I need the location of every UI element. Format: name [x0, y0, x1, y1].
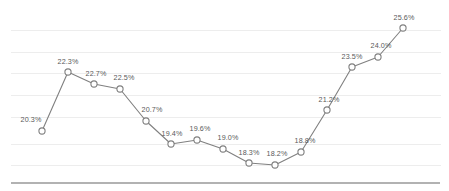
- data-point-15[interactable]: [400, 25, 406, 31]
- data-point-1[interactable]: [39, 128, 45, 134]
- data-point-6[interactable]: [168, 141, 174, 147]
- chart-plot-area: [0, 0, 449, 191]
- data-point-12[interactable]: [324, 107, 330, 113]
- data-point-13[interactable]: [349, 64, 355, 70]
- data-point-8[interactable]: [220, 146, 226, 152]
- data-point-7[interactable]: [194, 137, 200, 143]
- data-point-3[interactable]: [91, 81, 97, 87]
- data-point-11[interactable]: [298, 149, 304, 155]
- data-point-4[interactable]: [117, 86, 123, 92]
- data-point-5[interactable]: [143, 118, 149, 124]
- data-point-10[interactable]: [272, 162, 278, 168]
- series-markers-1: [39, 25, 406, 168]
- gridlines: [11, 31, 441, 166]
- data-point-2[interactable]: [65, 69, 71, 75]
- data-point-14[interactable]: [375, 54, 381, 60]
- line-chart: 20.3%22.3%22.7%22.5%20.7%19.4%19.6%19.0%…: [0, 0, 449, 191]
- data-point-9[interactable]: [246, 160, 252, 166]
